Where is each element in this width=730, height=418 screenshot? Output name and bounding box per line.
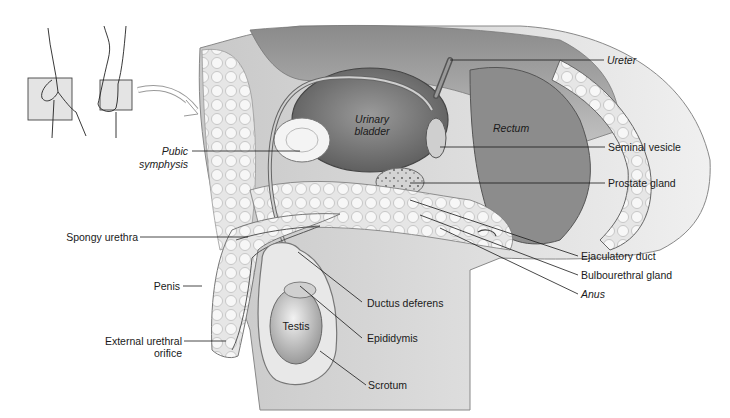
label-penis: Penis <box>130 280 180 292</box>
orientation-inset <box>28 26 198 138</box>
label-scrotum: Scrotum <box>368 379 407 391</box>
label-testis: Testis <box>274 320 318 332</box>
label-anus: Anus <box>581 288 605 300</box>
label-urinary-bladder-1: Urinary <box>344 113 400 125</box>
label-seminal-vesicle: Seminal vesicle <box>608 141 681 153</box>
label-pubic-symphysis-1: Pubic <box>130 145 188 157</box>
label-urinary-bladder-2: bladder <box>344 125 400 137</box>
label-ureter: Ureter <box>607 54 636 66</box>
label-prostate-gland: Prostate gland <box>608 177 676 189</box>
label-bulbourethral-gland: Bulbourethral gland <box>581 269 672 281</box>
label-epididymis: Epididymis <box>367 332 418 344</box>
label-external-urethral-orifice-2: orifice <box>70 347 182 359</box>
label-external-urethral-orifice-1: External urethral <box>70 335 182 347</box>
label-ejaculatory-duct: Ejaculatory duct <box>581 250 656 262</box>
label-spongy-urethra: Spongy urethra <box>30 231 138 243</box>
label-pubic-symphysis-2: symphysis <box>120 158 188 170</box>
anatomy-diagram: Ureter Urinary bladder Rectum Pubic symp… <box>0 0 730 418</box>
label-ductus-deferens: Ductus deferens <box>367 297 443 309</box>
label-rectum: Rectum <box>493 122 529 134</box>
